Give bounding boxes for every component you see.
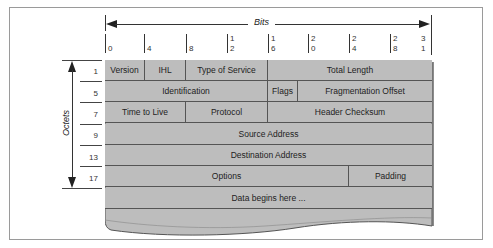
bit-tick-label: 24 (352, 34, 360, 53)
bit-tick-24: 24 (349, 34, 365, 54)
octets-arrow-down-icon (68, 177, 76, 188)
field-total-length: Total Length (268, 60, 432, 80)
bit-tick-label: 28 (393, 34, 401, 53)
octet-row-divider (80, 166, 102, 167)
field-protocol: Protocol (186, 102, 268, 122)
octets-axis-label: Octets (61, 107, 71, 139)
field-flags: Flags (268, 81, 298, 101)
bit-tick-label: 31 (421, 34, 429, 53)
octet-row-number: 7 (82, 110, 98, 119)
field-time-to-live: Time to Live (105, 102, 186, 122)
bit-tick-16: 16 (268, 34, 284, 54)
octet-row-number: 1 (82, 67, 98, 76)
header-row-3: Time to Live Protocol Header Checksum (105, 102, 432, 123)
bits-axis-label: Bits (248, 17, 275, 27)
field-padding: Padding (349, 166, 432, 186)
field-ihl: IHL (145, 60, 186, 80)
octets-axis-line (72, 70, 73, 178)
bit-tick-28: 28 (390, 34, 406, 54)
field-header-checksum: Header Checksum (268, 102, 432, 122)
field-options: Options (105, 166, 349, 186)
bit-tick-label: 20 (311, 34, 319, 53)
data-row: Data begins here ... (105, 188, 432, 209)
header-row-1: Version IHL Type of Service Total Length (105, 60, 432, 81)
header-row-6: Options Padding (105, 166, 432, 187)
field-version: Version (105, 60, 145, 80)
field-type-of-service: Type of Service (186, 60, 268, 80)
octet-row-divider (80, 145, 102, 146)
bit-tick-4: 4 (144, 34, 160, 54)
octet-row-number: 5 (82, 89, 98, 98)
bit-tick-label: 16 (271, 34, 279, 53)
header-row-4: Source Address (105, 124, 432, 145)
bit-tick-8: 8 (186, 34, 202, 54)
field-destination-address: Destination Address (105, 145, 432, 165)
field-identification: Identification (105, 81, 268, 101)
octet-row-number: 13 (82, 153, 98, 162)
bits-arrow-right-icon (419, 20, 430, 28)
octet-row-divider (80, 124, 102, 125)
bit-tick-label: 8 (189, 44, 197, 54)
octets-bottom-line (62, 188, 102, 189)
bit-tick-label: 4 (147, 44, 155, 54)
field-source-address: Source Address (105, 124, 432, 144)
bit-tick-20: 20 (308, 34, 324, 54)
octet-row-divider (80, 102, 102, 103)
octet-row-divider (80, 81, 102, 82)
bit-tick-31: 31 (421, 34, 437, 54)
field-fragmentation-offset: Fragmentation Offset (298, 81, 432, 101)
bit-tick-label: 12 (230, 34, 238, 53)
bit-tick-0: 0 (105, 34, 121, 54)
header-row-5: Destination Address (105, 145, 432, 166)
header-row-2: Identification Flags Fragmentation Offse… (105, 81, 432, 102)
octet-row-number: 9 (82, 131, 98, 140)
bit-tick-12: 12 (227, 34, 243, 54)
bit-tick-label: 0 (108, 44, 116, 54)
octet-row-number: 17 (82, 174, 98, 183)
field-data: Data begins here ... (105, 188, 432, 208)
